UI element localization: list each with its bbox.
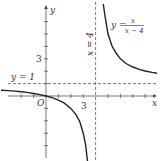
right-branch-curve bbox=[103, 4, 157, 73]
x-axis-label: x bbox=[152, 98, 157, 108]
function-numerator: x bbox=[131, 17, 135, 25]
y-axis-label: y bbox=[49, 5, 56, 15]
function-graph: y x O 3 3 y = 1 x = 4 y = x x − 4 bbox=[0, 0, 160, 161]
x-tick-label-3: 3 bbox=[81, 101, 87, 111]
graph-canvas: y x O 3 3 y = 1 x = 4 y = x x − 4 bbox=[0, 0, 160, 161]
horizontal-asymptote-label: y = 1 bbox=[10, 72, 35, 82]
function-denominator: x − 4 bbox=[125, 27, 144, 35]
origin-label: O bbox=[37, 98, 45, 108]
vertical-asymptote-label: x = 4 bbox=[85, 32, 95, 56]
y-tick-label-3: 3 bbox=[36, 54, 42, 64]
